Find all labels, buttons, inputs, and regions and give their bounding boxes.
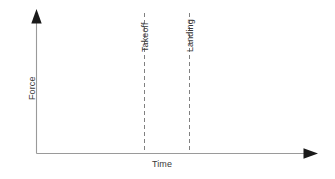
y-axis-arrowhead-icon xyxy=(31,9,41,24)
plot-canvas xyxy=(0,0,335,179)
y-axis-label: Force xyxy=(28,76,37,100)
takeoff-event-label: Takeoff xyxy=(141,22,150,52)
force-time-diagram: Force Takeoff Landing Time xyxy=(0,0,335,179)
x-axis-label: Time xyxy=(152,160,172,169)
landing-event-label: Landing xyxy=(186,19,195,52)
x-axis-arrowhead-icon xyxy=(304,148,319,158)
